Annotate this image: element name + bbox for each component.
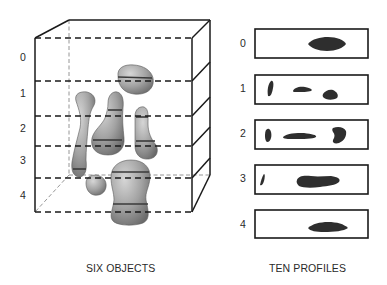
profile-3: 3 bbox=[240, 165, 368, 194]
object-d bbox=[135, 107, 157, 159]
object-a bbox=[118, 65, 153, 94]
profile-blob bbox=[293, 87, 312, 92]
caption-ten-profiles: TEN PROFILES bbox=[269, 262, 346, 274]
profile-blob bbox=[268, 81, 274, 96]
profile-label-0: 0 bbox=[240, 37, 246, 49]
profile-blob bbox=[265, 129, 271, 142]
profile-label-1: 1 bbox=[240, 82, 246, 94]
profile-blob bbox=[283, 133, 316, 139]
profile-blob bbox=[308, 222, 348, 232]
profile-blob bbox=[332, 127, 346, 143]
diagram-canvas: 0 1 2 3 4 0 1 2 bbox=[0, 0, 387, 285]
profile-4: 4 bbox=[240, 210, 368, 238]
level-label-4: 4 bbox=[20, 189, 26, 201]
profiles-panel: 0 1 2 3 4 bbox=[240, 29, 368, 238]
profile-2: 2 bbox=[240, 120, 368, 149]
profile-label-2: 2 bbox=[240, 127, 246, 139]
profile-frame bbox=[255, 210, 368, 238]
object-b bbox=[72, 92, 95, 177]
caption-six-objects: SIX OBJECTS bbox=[86, 262, 155, 274]
level-labels: 0 1 2 3 4 bbox=[20, 51, 26, 201]
profile-1: 1 bbox=[240, 75, 368, 104]
level-label-3: 3 bbox=[20, 154, 26, 166]
three-d-volume: 0 1 2 3 4 bbox=[20, 20, 210, 225]
level-label-0: 0 bbox=[20, 51, 26, 63]
profile-blob bbox=[260, 174, 265, 185]
object-f bbox=[111, 160, 150, 225]
profile-label-4: 4 bbox=[240, 218, 246, 230]
profile-blob bbox=[308, 37, 346, 51]
profile-0: 0 bbox=[240, 29, 368, 58]
level-label-1: 1 bbox=[20, 87, 26, 99]
profile-label-3: 3 bbox=[240, 172, 246, 184]
objects bbox=[72, 65, 158, 225]
profile-blob bbox=[297, 176, 340, 188]
level-label-2: 2 bbox=[20, 122, 26, 134]
profile-blob bbox=[323, 90, 338, 100]
